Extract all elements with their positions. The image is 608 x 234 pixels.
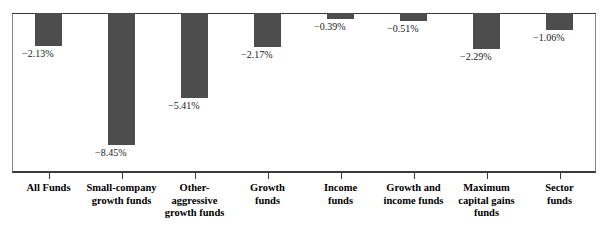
bar-value-label: −2.17% bbox=[241, 49, 272, 60]
x-axis-category-label: Small-company growth funds bbox=[85, 182, 158, 207]
x-axis-tick bbox=[49, 172, 50, 179]
x-axis-category-label: Other- aggressive growth funds bbox=[158, 182, 231, 220]
bar-value-label: −2.13% bbox=[22, 48, 53, 59]
bar bbox=[35, 13, 62, 46]
bar-value-label: −0.51% bbox=[387, 23, 418, 34]
bar bbox=[546, 13, 573, 30]
x-axis-category-label: Sector funds bbox=[523, 182, 596, 207]
x-axis-tick bbox=[268, 172, 269, 179]
x-axis-tick bbox=[341, 172, 342, 179]
bar bbox=[400, 13, 427, 21]
x-axis-tick bbox=[487, 172, 488, 179]
x-axis-category-label: Growth funds bbox=[231, 182, 304, 207]
bar bbox=[181, 13, 208, 98]
bar-value-label: −5.41% bbox=[168, 100, 199, 111]
x-axis-category-label: Growth and income funds bbox=[377, 182, 450, 207]
x-axis-tick bbox=[195, 172, 196, 179]
bar-value-label: −1.06% bbox=[533, 32, 564, 43]
x-axis-tick bbox=[122, 172, 123, 179]
bar bbox=[254, 13, 281, 47]
x-axis-category-label: Maximum capital gains funds bbox=[450, 182, 523, 220]
bar-value-label: −2.29% bbox=[460, 51, 491, 62]
zero-baseline bbox=[12, 13, 596, 14]
x-axis-category-label: Income funds bbox=[304, 182, 377, 207]
bar bbox=[108, 13, 135, 145]
x-axis-tick bbox=[560, 172, 561, 179]
bar bbox=[327, 13, 354, 19]
bar-value-label: −0.39% bbox=[314, 21, 345, 32]
bar-chart: −2.13%−8.45%−5.41%−2.17%−0.39%−0.51%−2.2… bbox=[0, 0, 608, 234]
x-axis-tick bbox=[414, 172, 415, 179]
x-axis-category-label: All Funds bbox=[12, 182, 85, 195]
bar bbox=[473, 13, 500, 49]
x-axis-line bbox=[12, 172, 596, 173]
bar-value-label: −8.45% bbox=[95, 147, 126, 158]
